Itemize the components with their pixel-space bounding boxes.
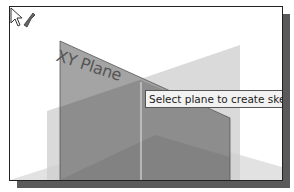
tooltip: Select plane to create sketch or: [145, 90, 283, 108]
select-cursor-icon: [10, 7, 38, 31]
graphics-viewport[interactable]: XY Plane Select plane to create sketch o…: [9, 6, 283, 181]
